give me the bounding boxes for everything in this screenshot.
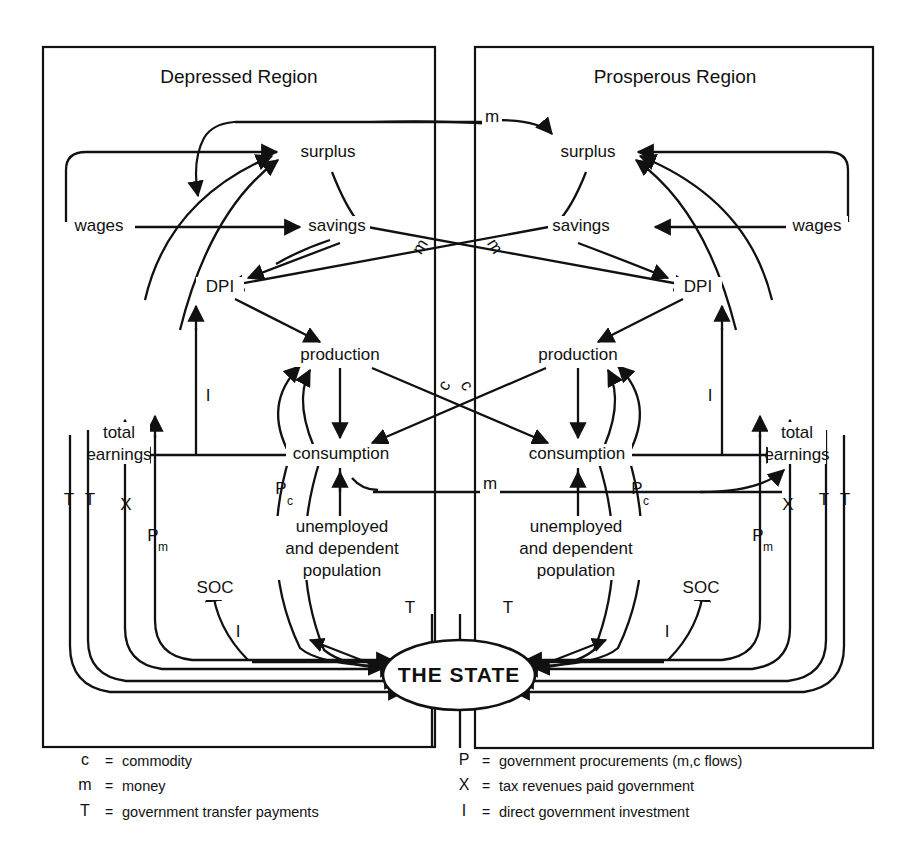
label-i-soc-right: I (665, 622, 670, 641)
label-pc-right: P (631, 479, 642, 498)
state-node-label: THE STATE (398, 663, 521, 686)
node-total-earnings-left-line2: earnings (86, 445, 151, 464)
diagram-canvas: Depressed Region Prosperous Region (0, 0, 914, 865)
label-m-top: m (485, 107, 499, 126)
label-i-right: I (708, 386, 713, 405)
node-surplus-right: surplus (561, 142, 616, 161)
node-consumption-right: consumption (529, 444, 625, 463)
label-t-right-inner: T (819, 490, 829, 509)
node-unemployed-right-line1: unemployed (530, 517, 623, 536)
label-x-left: X (120, 495, 131, 514)
node-soc-right: SOC (683, 578, 720, 597)
legend-right-eq-2: = (482, 804, 490, 820)
legend-right-key-0: P (459, 751, 470, 768)
node-production-right: production (538, 345, 617, 364)
node-wages-left: wages (73, 216, 123, 235)
node-consumption-left: consumption (293, 444, 389, 463)
flows-upper (66, 120, 848, 330)
node-production-left: production (300, 345, 379, 364)
legend-left-eq-1: = (105, 778, 113, 794)
node-unemployed-right-line3: population (537, 561, 615, 580)
flow-edge-labels: m m m m c c I I I I T T X P m P c T T T … (64, 107, 850, 641)
node-dpi-right: DPI (684, 277, 712, 296)
node-unemployed-left-line3: population (303, 561, 381, 580)
node-soc-left: SOC (197, 578, 234, 597)
label-t-right-outer: T (840, 490, 850, 509)
legend-left-eq-2: = (105, 804, 113, 820)
legend-left-text-0: commodity (122, 753, 193, 769)
node-unemployed-left-line1: unemployed (296, 517, 389, 536)
label-x-right: X (782, 495, 793, 514)
region-title-left: Depressed Region (160, 66, 317, 87)
node-total-earnings-left-line1: total (103, 423, 135, 442)
label-p-right-sub: m (763, 540, 773, 554)
label-m-consumption: m (483, 474, 497, 493)
legend-right-eq-1: = (482, 778, 490, 794)
legend-left-eq-0: = (105, 753, 113, 769)
label-p-left-sub: m (158, 540, 168, 554)
label-pc-left: P (275, 479, 286, 498)
label-t-unemployed-left: T (405, 598, 415, 617)
label-t-left-inner: T (85, 490, 95, 509)
legend-left-key-0: c (81, 751, 89, 768)
legend-right-key-1: X (459, 776, 470, 793)
flows-mid (135, 299, 782, 492)
legend-right-text-1: tax revenues paid government (499, 778, 694, 794)
node-surplus-left: surplus (301, 142, 356, 161)
legend-left-text-2: government transfer payments (122, 804, 319, 820)
label-t-left-outer: T (64, 490, 74, 509)
node-savings-left: savings (308, 216, 366, 235)
node-unemployed-left-line2: and dependent (285, 539, 399, 558)
legend-left-text-1: money (122, 778, 166, 794)
label-pc-right-sub: c (643, 494, 649, 508)
node-total-earnings-right-line1: total (781, 423, 813, 442)
node-wages-right: wages (791, 216, 841, 235)
legend-right-text-2: direct government investment (499, 804, 689, 820)
node-savings-right: savings (552, 216, 610, 235)
region-title-right: Prosperous Region (594, 66, 757, 87)
legend-right-eq-0: = (482, 753, 490, 769)
legend-right-text-0: government procurements (m,c flows) (499, 753, 742, 769)
label-i-soc-left: I (236, 622, 241, 641)
label-p-left: P (147, 526, 158, 545)
label-t-unemployed-right: T (503, 598, 513, 617)
label-i-left: I (206, 386, 211, 405)
label-pc-left-sub: c (287, 494, 293, 508)
legend: c = commodity m = money T = government t… (78, 751, 742, 820)
node-labels: surplus wages savings DPI production con… (68, 142, 848, 600)
legend-left-key-2: T (80, 802, 90, 819)
legend-right-key-2: I (462, 802, 466, 819)
label-p-right: P (752, 526, 763, 545)
label-c-left: c (434, 376, 455, 394)
regional-economy-flow-diagram: Depressed Region Prosperous Region (0, 0, 914, 865)
node-unemployed-right-line2: and dependent (519, 539, 633, 558)
node-total-earnings-right-line2: earnings (764, 445, 829, 464)
legend-left-key-1: m (78, 776, 91, 793)
node-dpi-left: DPI (206, 277, 234, 296)
